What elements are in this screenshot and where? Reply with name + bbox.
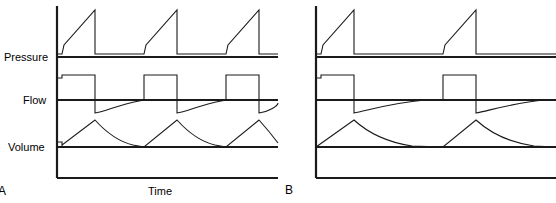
panel-a xyxy=(57,6,278,178)
pressure-axis-label: Pressure xyxy=(4,51,48,63)
panel-a-letter: A xyxy=(0,184,6,198)
ventilator-waveform-figure: Pressure Flow Volume Time A B xyxy=(0,0,556,203)
panel-b-pressure-trace xyxy=(316,10,556,54)
time-axis-label: Time xyxy=(148,185,172,197)
panel-b-letter: B xyxy=(285,183,293,197)
panel-b-flow-trace xyxy=(316,75,556,113)
volume-axis-label: Volume xyxy=(8,141,45,153)
flow-axis-label: Flow xyxy=(23,94,46,106)
panel-a-pressure-trace xyxy=(57,10,278,54)
waveform-canvas xyxy=(0,0,556,203)
panel-a-flow-trace xyxy=(57,75,278,113)
panel-a-volume-trace xyxy=(57,120,278,147)
panel-b-volume-trace xyxy=(316,120,556,147)
panel-b xyxy=(316,6,556,178)
